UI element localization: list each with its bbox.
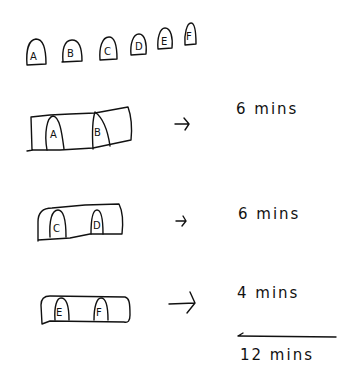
piece-label: E xyxy=(56,307,62,318)
piece-a: A xyxy=(27,39,46,65)
total-label: 12 mins xyxy=(240,346,314,364)
piece-e: E xyxy=(158,28,172,49)
piece-label: A xyxy=(50,129,57,140)
piece-b: B xyxy=(62,40,82,62)
time-label: 4 mins xyxy=(237,284,299,302)
piece-label: D xyxy=(93,220,101,231)
arrow-icon xyxy=(175,118,189,130)
time-label: 6 mins xyxy=(236,100,298,118)
piece-label: B xyxy=(94,127,101,138)
time-label: 6 mins xyxy=(238,205,300,223)
piece-label: F xyxy=(186,31,192,42)
tray xyxy=(27,107,132,151)
pieces-row: A B C D E F xyxy=(27,23,196,65)
step-1: A B 6 mins xyxy=(27,100,298,151)
arrow-icon xyxy=(176,216,186,226)
piece-c: C xyxy=(100,37,117,60)
piece-label: D xyxy=(135,41,143,52)
total: 12 mins xyxy=(238,333,336,364)
step-2: C D 6 mins xyxy=(38,204,300,241)
piece-label: B xyxy=(67,48,74,59)
piece-label: C xyxy=(53,223,60,234)
sum-line xyxy=(238,333,336,337)
diagram-canvas: A B C D E F A B 6 mins xyxy=(0,0,360,388)
piece-label: F xyxy=(96,307,102,318)
step-3: E F 4 mins xyxy=(41,284,299,324)
piece-d: D xyxy=(131,34,146,55)
piece-label: C xyxy=(104,46,111,57)
piece-f: F xyxy=(185,23,196,45)
piece-label: A xyxy=(30,51,37,62)
arrow-icon xyxy=(169,292,195,313)
piece-label: E xyxy=(161,36,167,47)
